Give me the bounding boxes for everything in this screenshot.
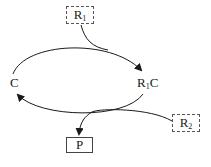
r2-to-p-line: [79, 110, 172, 134]
product-p-box: P: [66, 137, 93, 153]
p-label: P: [76, 137, 83, 153]
catalyst-c-label: C: [10, 76, 19, 89]
reactant-r2-box: R2: [172, 114, 200, 132]
top-arc-arrow: [13, 48, 141, 74]
catalytic-cycle-diagram: R1 C R1C R2 P: [0, 0, 211, 167]
complex-r1c-label: R1C: [137, 76, 158, 91]
cycle-arrows: [0, 0, 211, 167]
reactant-r1-box: R1: [66, 6, 94, 24]
r2-label: R2: [180, 115, 193, 131]
r1-label: R1: [74, 7, 87, 23]
r1-feed-line: [81, 25, 108, 50]
